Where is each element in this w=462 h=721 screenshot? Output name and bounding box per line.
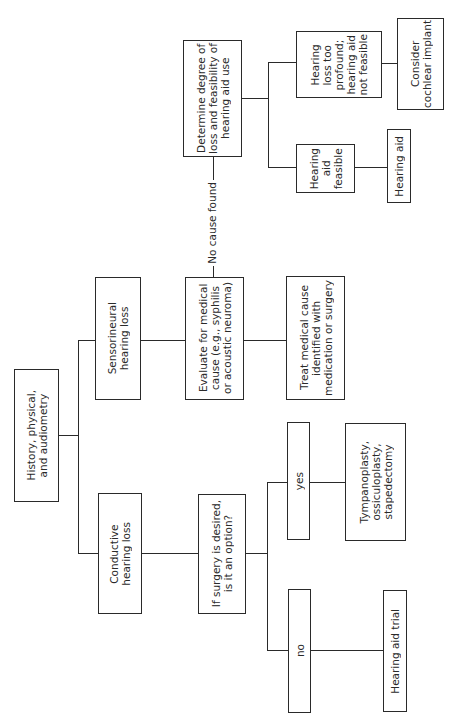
connector-surgery-trunk <box>267 482 268 651</box>
connector-determine-trunk <box>268 62 269 168</box>
connector-to-conductive <box>78 553 98 554</box>
connector-conductive-surgery <box>142 553 198 554</box>
connector-to-profound <box>268 62 296 63</box>
node-hearing-aid-trial: Hearing aid trial <box>383 590 407 712</box>
node-cochlear: Consider cochlear implant <box>397 18 444 110</box>
node-feasible: Hearing aid feasible <box>296 144 355 193</box>
node-history: History, physical, and audiometry <box>14 369 59 502</box>
node-evaluate: Evaluate for medical cause (e.g., syphil… <box>185 277 244 400</box>
connector-to-yes <box>267 482 287 483</box>
node-history-text: History, physical, and audiometry <box>25 390 49 480</box>
connector-evaluate-treat <box>244 340 286 341</box>
node-sensorineural: Sensorineural hearing loss <box>95 277 141 400</box>
connector-feasible-aid <box>355 167 387 168</box>
edge-label-no-cause: No cause found <box>206 180 218 266</box>
node-determine: Determine degree of loss and feasibility… <box>183 40 242 157</box>
node-yes: yes <box>287 422 310 540</box>
connector-surgery-branch <box>246 553 267 554</box>
connector-to-no <box>267 650 288 651</box>
connector-to-feasible <box>268 167 296 168</box>
node-surgery-question: If surgery is desired, is it an option? <box>198 494 246 614</box>
node-no: no <box>288 589 311 713</box>
node-too-profound: Hearing loss too profound; hearing aid n… <box>296 31 382 98</box>
connector-to-sensorineural <box>78 340 95 341</box>
connector-profound-cochlear <box>382 63 397 64</box>
node-hearing-aid: Hearing aid <box>387 129 411 203</box>
connector-determine-branch <box>242 98 268 99</box>
connector-no-trial <box>311 650 383 651</box>
connector-yes-tympano <box>310 482 345 483</box>
connector-sensorineural-evaluate <box>141 340 185 341</box>
node-conductive: Conductive hearing loss <box>98 493 142 614</box>
connector-root <box>59 435 78 436</box>
node-treat: Treat medical cause identified with medi… <box>286 276 345 400</box>
node-tympanoplasty: Tympanoplasty, ossiculoplasty, stapedect… <box>345 423 406 541</box>
connector-root-trunk <box>78 340 79 554</box>
